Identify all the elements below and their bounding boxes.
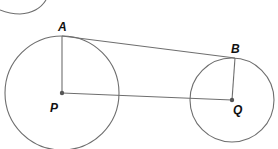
label-q: Q [233,103,243,117]
partial-circle-arc [0,0,46,14]
segment-ab [62,36,235,58]
segment-bq [232,58,235,100]
point-q-dot [230,98,234,102]
segment-pq [62,93,232,100]
tangent-circles-diagram: A B P Q [0,0,278,149]
point-p-dot [60,91,64,95]
label-b: B [231,42,240,56]
label-p: P [50,101,59,115]
label-a: A [57,20,67,34]
